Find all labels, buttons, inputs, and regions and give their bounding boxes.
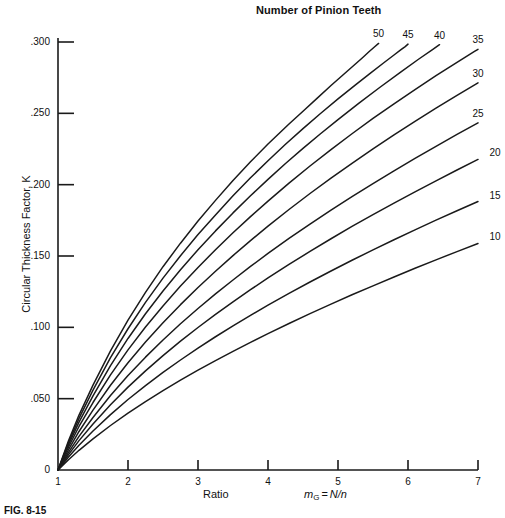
curve-35 xyxy=(58,49,478,470)
curve-label-40: 40 xyxy=(427,30,453,41)
curve-20 xyxy=(58,159,478,470)
curve-label-45: 45 xyxy=(395,29,421,40)
x-tick-label: 4 xyxy=(248,476,288,487)
x-tick-label: 2 xyxy=(108,476,148,487)
curve-label-10: 10 xyxy=(482,231,505,242)
formula-symbol: m xyxy=(304,488,313,500)
y-tick-label: .250 xyxy=(2,107,50,118)
formula-expression: N/n xyxy=(330,488,347,500)
curve-label-15: 15 xyxy=(482,190,505,201)
x-axis-label-ratio: Ratio xyxy=(203,488,229,500)
x-tick-label: 1 xyxy=(38,476,78,487)
curve-label-25: 25 xyxy=(465,108,491,119)
curve-45 xyxy=(58,44,408,470)
x-axis-label-formula: mG=N/n xyxy=(304,488,347,502)
curve-label-20: 20 xyxy=(482,147,505,158)
curve-40 xyxy=(58,45,440,470)
curve-label-35: 35 xyxy=(465,34,491,45)
curve-label-30: 30 xyxy=(465,68,491,79)
x-tick-label: 5 xyxy=(318,476,358,487)
formula-equals: = xyxy=(319,488,329,500)
y-tick-label: .300 xyxy=(2,36,50,47)
x-tick-label: 7 xyxy=(458,476,498,487)
x-tick-label: 6 xyxy=(388,476,428,487)
figure-caption: FIG. 8-15 xyxy=(4,505,46,516)
y-tick-label: 0 xyxy=(2,464,50,475)
y-tick-label: .050 xyxy=(2,393,50,404)
curve-30 xyxy=(58,83,478,470)
x-tick-label: 3 xyxy=(178,476,218,487)
curve-50 xyxy=(58,43,379,470)
y-axis-label: Circular Thickness Factor, K xyxy=(20,144,32,344)
curve-15 xyxy=(58,202,478,471)
curve-label-50: 50 xyxy=(366,28,392,39)
